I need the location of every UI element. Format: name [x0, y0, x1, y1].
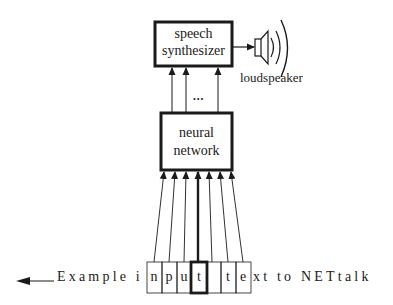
cell-char-focus: t	[192, 269, 206, 285]
loudspeaker-icon	[255, 20, 288, 77]
synthesizer-label-line2: synthesizer	[155, 44, 232, 58]
network-label: neural network	[161, 126, 232, 158]
network-label-line1: neural	[161, 126, 232, 140]
cell-char: p	[162, 269, 176, 285]
network-label-line2: network	[161, 144, 232, 158]
cell-char: n	[147, 269, 161, 285]
loudspeaker-label: loudspeaker	[240, 71, 303, 84]
cell-char: t	[221, 269, 235, 285]
ellipsis: •••	[193, 96, 204, 104]
synthesizer-label-line1: speech	[155, 27, 232, 41]
direction-arrow-head	[16, 277, 30, 285]
input-arrows	[154, 172, 243, 262]
synthesizer-label: speech synthesizer	[155, 27, 232, 58]
cell-char: u	[177, 269, 191, 285]
input-text-prefix: Example i	[57, 269, 143, 285]
input-text-suffix: xt to NETtalk	[253, 269, 372, 285]
cell-char: e	[236, 269, 250, 285]
